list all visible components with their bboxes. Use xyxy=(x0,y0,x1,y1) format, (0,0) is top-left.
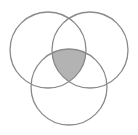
venn-diagram xyxy=(0,0,138,135)
